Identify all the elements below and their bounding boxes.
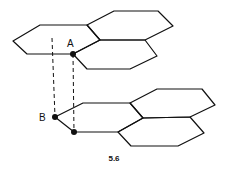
bottom-hexagon-left bbox=[55, 103, 143, 132]
figure-caption: 5.6 bbox=[0, 154, 228, 163]
label-a: A bbox=[67, 38, 74, 49]
point-b bbox=[52, 114, 58, 120]
bottom-hexagon-right-upper bbox=[130, 89, 215, 118]
bottom-hexagon-right-lower bbox=[118, 117, 204, 146]
top-hexagon-right-upper bbox=[87, 11, 173, 40]
top-hexagon-left bbox=[13, 25, 100, 54]
point-a bbox=[70, 51, 76, 57]
dashed-projection-line-b bbox=[52, 38, 55, 117]
label-b: B bbox=[39, 112, 46, 123]
point-a-projection bbox=[71, 129, 77, 135]
dashed-projection-line-a bbox=[73, 54, 74, 132]
hexagon-layers-diagram bbox=[0, 0, 228, 171]
top-hexagon-right-lower bbox=[73, 40, 157, 69]
